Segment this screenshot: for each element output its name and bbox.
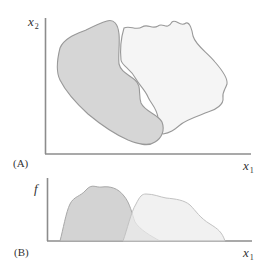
panel-b-label: (B)	[14, 246, 29, 258]
panel-b-right-distribution	[123, 194, 225, 241]
panel-b-y-axis-label: f	[34, 181, 38, 197]
panel-a-x-axis-label: x1	[243, 158, 254, 175]
panel-a-label: (A)	[13, 157, 28, 169]
panel-a-y-axis-label: x2	[28, 14, 39, 31]
panel-b-x-axis-label: x1	[243, 245, 254, 262]
diagram-canvas	[0, 0, 266, 272]
